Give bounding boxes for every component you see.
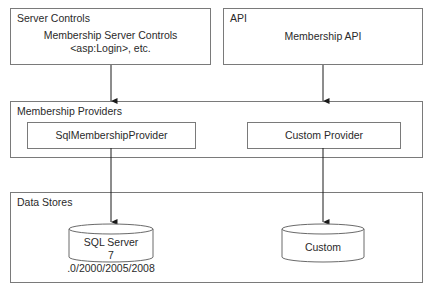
sql-server-text: SQL Server 7 .0/2000/2005/2008 — [64, 236, 158, 275]
custom-store-text: Custom — [282, 241, 364, 253]
sql-server-line2: 7 .0/2000/2005/2008 — [64, 249, 158, 275]
sql-server-line1: SQL Server — [64, 236, 158, 249]
